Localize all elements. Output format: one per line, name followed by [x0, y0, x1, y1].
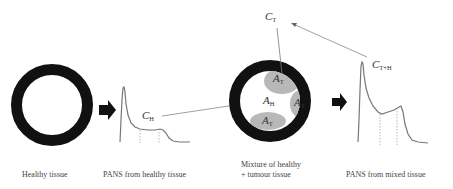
label-a-h: AH — [263, 94, 274, 107]
symbol-sub: T — [301, 102, 305, 109]
label-a-t-right: AT — [294, 96, 305, 109]
caption-healthy-tissue: Healthy tissue — [22, 170, 68, 180]
symbol-sub: H — [270, 100, 275, 107]
pans-mixed-curve — [358, 62, 428, 145]
symbol-sub: T — [280, 78, 284, 85]
symbol-sub: H — [149, 115, 154, 122]
arrow-right-icon — [99, 100, 116, 120]
healthy-tissue-ring — [17, 70, 88, 141]
connector-cth-ct — [293, 24, 367, 57]
symbol-sub: T+H — [379, 64, 391, 71]
label-c-t: CT — [265, 10, 276, 23]
label-a-t-bottom: AT — [262, 114, 273, 127]
symbol-main: A — [263, 94, 270, 106]
caption-mixture-line1: Mixture of healthy — [241, 160, 301, 170]
arrow-right-icon — [332, 93, 347, 111]
symbol-main: A — [262, 114, 269, 126]
pans-healthy-curve — [120, 87, 190, 143]
symbol-main: A — [294, 96, 301, 108]
caption-pans-healthy: PANS from healthy tissue — [103, 170, 186, 180]
caption-mixture-line2: + tumour tissue — [241, 170, 291, 180]
symbol-sub: T — [269, 120, 273, 127]
label-c-h: CH — [142, 109, 154, 122]
label-c-th: CT+H — [372, 58, 392, 71]
symbol-main: A — [273, 72, 280, 84]
label-a-t-top: AT — [273, 72, 284, 85]
caption-pans-mixed: PANS from mixed tissue — [346, 170, 426, 180]
symbol-sub: T — [272, 16, 276, 23]
diagram-canvas — [0, 0, 453, 189]
